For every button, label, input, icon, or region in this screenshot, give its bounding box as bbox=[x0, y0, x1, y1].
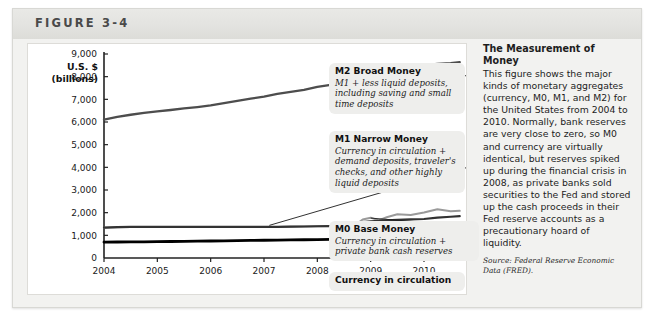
figure-card: FIGURE 3-4 U.S. $ (billions) 01,0002,000… bbox=[12, 8, 642, 308]
callout-m2-title: M2 Broad Money bbox=[335, 66, 459, 78]
callout-m0: M0 Base Money Currency in circulation + … bbox=[329, 221, 479, 261]
y-tick-label: 9,000 bbox=[71, 49, 97, 59]
y-tick-label: 3,000 bbox=[71, 185, 97, 195]
x-tick-label: 2005 bbox=[146, 266, 169, 276]
y-tick-label: 0 bbox=[91, 253, 97, 263]
side-panel-source: Source: Federal Reserve Economic Data (F… bbox=[483, 256, 631, 275]
callout-currency: Currency in circulation bbox=[329, 272, 465, 291]
y-tick-label: 7,000 bbox=[71, 95, 97, 105]
callout-currency-title: Currency in circulation bbox=[335, 275, 459, 287]
y-tick-label: 2,000 bbox=[71, 208, 97, 218]
side-text-panel: The Measurement of Money This figure sho… bbox=[483, 43, 631, 301]
y-tick-label: 5,000 bbox=[71, 140, 97, 150]
callout-m0-title: M0 Base Money bbox=[335, 224, 473, 236]
side-panel-body: This figure shows the major kinds of mon… bbox=[483, 68, 631, 249]
side-panel-title: The Measurement of Money bbox=[483, 43, 631, 67]
x-tick-label: 2004 bbox=[93, 266, 116, 276]
x-tick-label: 2007 bbox=[253, 266, 276, 276]
x-tick-label: 2006 bbox=[199, 266, 222, 276]
callout-m0-desc: Currency in circulation + private bank c… bbox=[335, 236, 473, 258]
y-tick-label: 1,000 bbox=[71, 231, 97, 241]
x-tick-label: 2008 bbox=[306, 266, 329, 276]
y-tick-label: 4,000 bbox=[71, 163, 97, 173]
figure-body: U.S. $ (billions) 01,0002,0003,0004,0005… bbox=[13, 39, 641, 307]
callout-m2: M2 Broad Money M1 + less liquid deposits… bbox=[329, 63, 465, 114]
callout-m2-desc: M1 + less liquid deposits, including sav… bbox=[335, 78, 459, 110]
y-tick-label: 8,000 bbox=[71, 72, 97, 82]
figure-header-band: FIGURE 3-4 bbox=[13, 9, 641, 39]
y-tick-label: 6,000 bbox=[71, 117, 97, 127]
callout-m1: M1 Narrow Money Currency in circulation … bbox=[329, 131, 465, 193]
figure-label: FIGURE 3-4 bbox=[35, 16, 129, 30]
callout-m1-title: M1 Narrow Money bbox=[335, 134, 459, 146]
callout-m1-desc: Currency in circulation + demand deposit… bbox=[335, 146, 459, 189]
